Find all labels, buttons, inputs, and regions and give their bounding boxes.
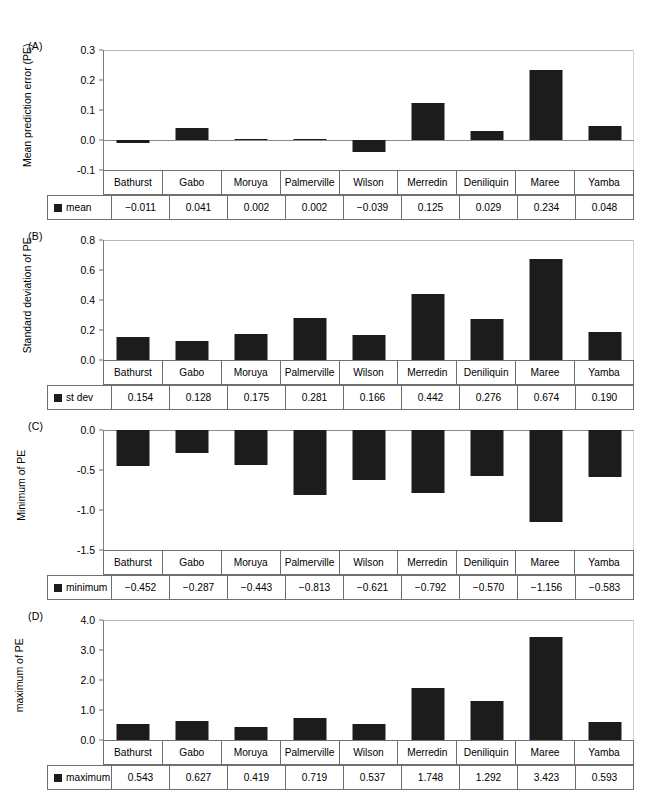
category-cell: Moruya: [221, 171, 280, 195]
bar-deniliquin: [470, 319, 503, 360]
y-tick-label: 0.8: [80, 235, 95, 246]
value-cell: −0.011: [112, 196, 170, 220]
category-cell: Bathurst: [104, 361, 163, 385]
y-tick-label: 0.0: [80, 425, 95, 436]
bar-group-b: [104, 240, 634, 360]
y-tick-label: 0.2: [80, 75, 95, 86]
bar-moruya: [235, 334, 268, 360]
value-cell: 0.593: [576, 766, 634, 790]
value-cell: 0.166: [344, 386, 402, 410]
value-cell: −0.792: [402, 576, 460, 600]
value-cell: 0.154: [112, 386, 170, 410]
value-cell: −0.452: [112, 576, 170, 600]
y-tick-label: 0.0: [80, 135, 95, 146]
y-tick-label: -0.1: [77, 165, 95, 176]
legend-swatch-icon: [54, 584, 62, 592]
plot-area-d: [103, 620, 634, 740]
bar-palmerville: [294, 430, 327, 495]
category-cell: Yamba: [575, 741, 634, 765]
value-cell: 0.234: [518, 196, 576, 220]
bar-slot: [575, 430, 634, 550]
bar-bathurst: [117, 337, 150, 360]
y-tick-label: -0.5: [77, 465, 95, 476]
category-cell: Deniliquin: [457, 551, 516, 575]
y-tick-label: 3.0: [80, 645, 95, 656]
category-cell: Moruya: [221, 361, 280, 385]
table-row: maximum0.5430.6270.4190.7190.5371.7481.2…: [48, 766, 634, 790]
value-cell: −0.443: [228, 576, 286, 600]
value-cell: 0.543: [112, 766, 170, 790]
bar-slot: [163, 240, 222, 360]
legend-label: minimum: [66, 582, 107, 593]
value-cell: 0.190: [576, 386, 634, 410]
category-header-row-c: BathurstGaboMoruyaPalmervilleWilsonMerre…: [103, 550, 634, 575]
y-tick-label: 0.4: [80, 295, 95, 306]
bar-wilson: [353, 430, 386, 480]
category-cell: Deniliquin: [457, 361, 516, 385]
table-row: st dev0.1540.1280.1750.2810.1660.4420.27…: [48, 386, 634, 410]
bar-bathurst: [117, 140, 150, 143]
legend-swatch-icon: [54, 774, 62, 782]
category-cell: Merredin: [398, 361, 457, 385]
bar-slot: [340, 620, 399, 740]
bar-maree: [529, 70, 562, 140]
bar-slot: [516, 620, 575, 740]
y-axis-ticks-a: 0.30.20.10.0-0.1: [0, 50, 103, 170]
bar-group-a: [104, 50, 634, 170]
bar-deniliquin: [470, 701, 503, 740]
bar-slot: [457, 620, 516, 740]
y-tick-label: -1.0: [77, 505, 95, 516]
value-cell: 0.537: [344, 766, 402, 790]
category-cell: Palmerville: [280, 171, 339, 195]
bar-merredin: [411, 103, 444, 141]
y-tick-label: 0.2: [80, 325, 95, 336]
value-cell: 0.002: [228, 196, 286, 220]
category-cell: Merredin: [398, 741, 457, 765]
bar-slot: [281, 240, 340, 360]
bar-slot: [575, 50, 634, 170]
category-cell: Wilson: [339, 361, 398, 385]
value-cell: 1.292: [460, 766, 518, 790]
chart-panel-b: (B)Standard deviation of PE0.80.60.40.20…: [0, 228, 667, 416]
chart-panel-c: (C)Minimum of PE0.0-0.5-1.0-1.5BathurstG…: [0, 418, 667, 606]
value-cell: −0.583: [576, 576, 634, 600]
category-cell: Wilson: [339, 741, 398, 765]
y-tick-label: 0.3: [80, 45, 95, 56]
bar-slot: [340, 430, 399, 550]
category-cell: Moruya: [221, 551, 280, 575]
bar-gabo: [176, 341, 209, 360]
value-cell: 0.175: [228, 386, 286, 410]
value-row-table-a: mean−0.0110.0410.0020.002−0.0390.1250.02…: [47, 195, 634, 220]
value-cell: 1.748: [402, 766, 460, 790]
category-cell: Palmerville: [280, 741, 339, 765]
y-axis-ticks-b: 0.80.60.40.20.0: [0, 240, 103, 360]
bar-slot: [398, 240, 457, 360]
bar-slot: [281, 620, 340, 740]
y-tick-label: 2.0: [80, 675, 95, 686]
bar-slot: [281, 430, 340, 550]
y-tick-label: 0.6: [80, 265, 95, 276]
legend-label: mean: [66, 202, 91, 213]
chart-panel-d: (D)maximum of PE4.03.02.01.00.0BathurstG…: [0, 608, 667, 792]
category-cell: Deniliquin: [457, 171, 516, 195]
bar-moruya: [235, 139, 268, 140]
bar-slot: [281, 50, 340, 170]
y-tick-label: -1.5: [77, 545, 95, 556]
y-tick-label: 0.1: [80, 105, 95, 116]
bar-wilson: [353, 335, 386, 360]
value-cell: 0.048: [576, 196, 634, 220]
bar-bathurst: [117, 430, 150, 466]
category-cell: Yamba: [575, 361, 634, 385]
value-row-table-c: minimum−0.452−0.287−0.443−0.813−0.621−0.…: [47, 575, 634, 600]
bar-slot: [222, 430, 281, 550]
bar-slot: [340, 50, 399, 170]
bar-yamba: [588, 332, 621, 361]
bar-yamba: [588, 126, 621, 140]
value-cell: 0.128: [170, 386, 228, 410]
table-row: BathurstGaboMoruyaPalmervilleWilsonMerre…: [104, 741, 634, 765]
y-tick-label: 0.0: [80, 355, 95, 366]
bar-slot: [104, 50, 163, 170]
category-cell: Merredin: [398, 551, 457, 575]
series-legend-cell: minimum: [48, 576, 112, 600]
bar-maree: [529, 430, 562, 522]
